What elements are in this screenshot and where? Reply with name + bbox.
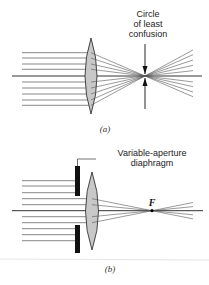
focal-point-label: F <box>148 197 156 208</box>
panel-b-annotation-line-1: Variable-aperture <box>118 148 187 158</box>
panel-a-refracted-rays <box>91 50 193 105</box>
panel-a-caption: (a) <box>100 124 111 134</box>
lens-aberration-figure: Circle of least confusion (a) F Variable… <box>0 0 209 285</box>
refracted-ray <box>91 50 193 105</box>
focal-point-dot <box>150 209 153 212</box>
diaphragm-top-blade <box>75 166 80 196</box>
refracted-ray <box>92 199 193 219</box>
diaphragm-leader-line <box>78 159 97 166</box>
diaphragm-bottom-blade <box>75 225 80 253</box>
panel-b-caption: (b) <box>105 264 116 274</box>
panel-a-incoming-rays <box>22 53 91 106</box>
panel-a-annotation-line-3: confusion <box>129 29 168 39</box>
panel-b-aperture-diaphragm: F Variable-aperture diaphragm (b) <box>0 148 209 274</box>
refracted-ray <box>91 65 193 88</box>
panel-a-converging-lens <box>85 38 97 114</box>
refracted-ray <box>92 205 193 215</box>
refracted-ray <box>91 60 193 94</box>
divider-line <box>0 259 209 260</box>
refracted-ray <box>92 207 193 217</box>
arrowhead-up-icon <box>143 78 148 86</box>
refracted-ray <box>92 203 193 223</box>
arrowhead-down-icon <box>143 66 148 74</box>
panel-a-annotation-line-2: of least <box>133 19 163 29</box>
panel-a-annotation-line-1: Circle <box>136 9 159 19</box>
refracted-ray <box>91 58 193 92</box>
panel-b-annotation-line-2: diaphragm <box>131 158 174 168</box>
panel-b-converging-lens <box>86 172 99 250</box>
panel-a-spherical-aberration: Circle of least confusion (a) <box>12 9 202 134</box>
